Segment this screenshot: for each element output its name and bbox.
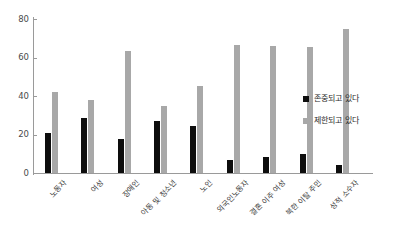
x-axis-tick-label: 노인 [197, 177, 215, 195]
bar-group [69, 19, 105, 173]
legend-swatch-icon [303, 118, 309, 124]
bar-group [215, 19, 251, 173]
x-axis-label-group: 노동자여성장애인아동 및 청소년노인외국인노동자결혼 이주 여성북한 이탈 주민… [33, 173, 361, 238]
bar [263, 157, 269, 173]
x-axis-tick-label: 장애인 [119, 177, 142, 200]
bar [227, 160, 233, 173]
bar [270, 46, 276, 173]
bar [190, 126, 196, 173]
bar [125, 51, 131, 173]
legend-item-label: 존중되고 있다 [314, 95, 359, 103]
bar-group [252, 19, 288, 173]
x-axis-tick-label: 성적 소수자 [326, 177, 360, 211]
legend-swatch-icon [303, 96, 309, 102]
bar-group [106, 19, 142, 173]
bar [154, 121, 160, 173]
bar-group [179, 19, 215, 173]
x-axis-tick-label: 여성 [88, 177, 106, 195]
bar [88, 100, 94, 173]
x-axis-tick-label: 북한 이탈 주민 [283, 177, 324, 218]
y-axis-tick-label: 60 [18, 53, 33, 62]
bar [336, 165, 342, 173]
legend-item[interactable]: 존중되고 있다 [303, 88, 395, 110]
x-axis-tick-label: 외국인노동자 [214, 177, 251, 214]
bar [45, 133, 51, 173]
chart-legend: 존중되고 있다제한되고 있다 [303, 88, 395, 132]
bar [52, 92, 58, 173]
bar-group [33, 19, 69, 173]
bar [161, 106, 167, 173]
y-axis-tick-label: 40 [18, 92, 33, 101]
bar [81, 118, 87, 173]
bar [300, 154, 306, 173]
bar [118, 139, 124, 173]
legend-item[interactable]: 제한되고 있다 [303, 110, 395, 132]
bar [234, 45, 240, 173]
x-axis-tick-label: 아동 및 청소년 [137, 177, 178, 218]
bar-chart: 020406080 노동자여성장애인아동 및 청소년노인외국인노동자결혼 이주 … [0, 0, 397, 238]
bar [197, 86, 203, 173]
y-axis-tick-label: 0 [24, 169, 33, 178]
x-axis-tick-label: 노동자 [46, 177, 69, 200]
x-axis-tick-label: 결혼 이주 여성 [247, 177, 288, 218]
y-axis-tick-label: 80 [18, 15, 33, 24]
legend-item-label: 제한되고 있다 [314, 117, 359, 125]
y-axis-tick-label: 20 [18, 130, 33, 139]
bar-group [142, 19, 178, 173]
